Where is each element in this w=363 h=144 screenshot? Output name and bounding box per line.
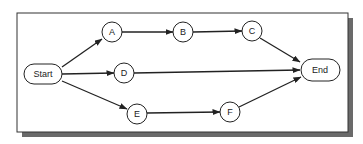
node-b-label: B xyxy=(180,27,186,37)
node-c-label: C xyxy=(249,26,256,36)
node-d-label: D xyxy=(121,68,128,78)
node-c: C xyxy=(242,21,262,41)
node-start-label: Start xyxy=(33,69,53,79)
node-start: Start xyxy=(24,64,62,84)
node-f-label: F xyxy=(227,107,233,117)
node-d: D xyxy=(114,63,134,83)
node-b: B xyxy=(173,22,193,42)
node-f: F xyxy=(220,102,240,122)
node-a: A xyxy=(102,22,122,42)
node-e: E xyxy=(127,104,147,124)
node-end: End xyxy=(301,59,340,81)
node-a-label: A xyxy=(109,27,115,37)
flow-diagram: Start A B C D E F End xyxy=(0,0,363,144)
node-end-label: End xyxy=(312,65,328,75)
node-e-label: E xyxy=(134,109,140,119)
